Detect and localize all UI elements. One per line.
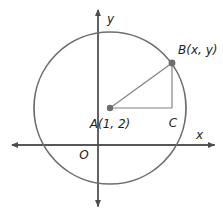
point-b-label: B(x, y) — [178, 43, 217, 57]
diagram-canvas: y x O A(1, 2) B(x, y) C — [0, 0, 223, 215]
point-a-label: A(1, 2) — [89, 117, 130, 131]
origin-label: O — [79, 148, 88, 162]
x-axis-label: x — [195, 128, 204, 142]
segment-ab — [110, 63, 172, 108]
point-b-dot — [169, 60, 176, 67]
geometry-figure: y x O A(1, 2) B(x, y) C — [0, 0, 223, 215]
point-a-dot — [107, 105, 113, 111]
y-axis-label: y — [106, 12, 115, 26]
point-c-label: C — [169, 116, 178, 130]
